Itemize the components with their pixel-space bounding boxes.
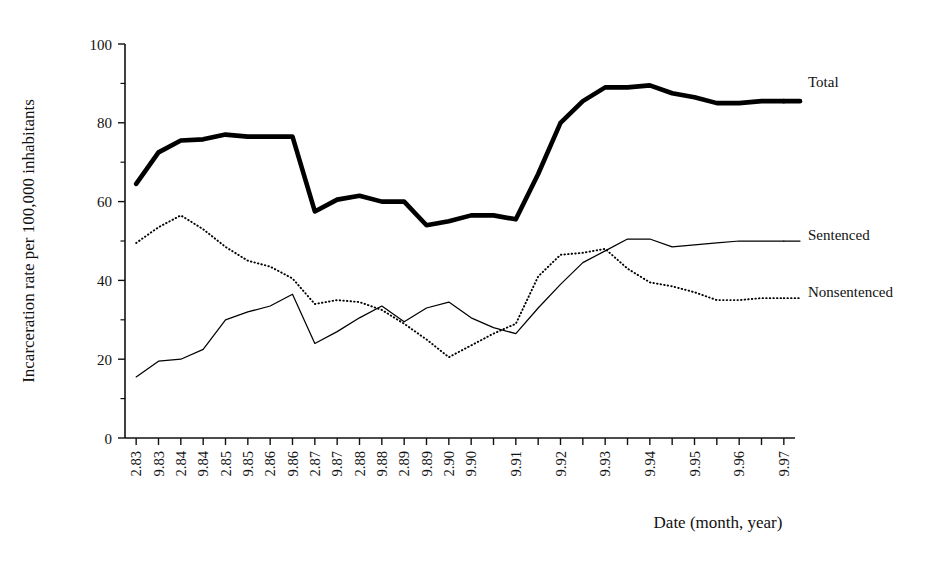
x-tick-label-2.87: 2.87 — [307, 451, 323, 476]
chart-series-group — [136, 85, 784, 377]
series-line-nonsentenced — [136, 215, 784, 357]
x-tick-label-9.97: 9.97 — [776, 451, 792, 476]
x-tick-label-2.85: 2.85 — [218, 451, 234, 476]
x-tick-label-9.86: 9.86 — [285, 451, 301, 476]
series-labels-group: TotalSentencedNonsentenced — [808, 74, 893, 300]
y-tick-label-40: 40 — [97, 273, 112, 289]
x-tick-label-9.92: 9.92 — [553, 451, 569, 476]
series-label-total: Total — [808, 74, 839, 90]
x-tick-label-9.83: 9.83 — [151, 451, 167, 476]
x-tick-label-9.89: 9.89 — [419, 451, 435, 476]
x-tick-label-9.90: 9.90 — [463, 451, 479, 476]
y-axis-title: Incarceration rate per 100,000 inhabitan… — [19, 99, 38, 383]
series-line-sentenced — [136, 239, 784, 377]
x-tick-label-2.88: 2.88 — [352, 451, 368, 476]
x-tick-label-2.90: 2.90 — [441, 451, 457, 476]
x-tick-label-9.87: 9.87 — [329, 451, 345, 476]
y-axis-ticks — [118, 44, 125, 438]
x-tick-label-9.88: 9.88 — [374, 451, 390, 476]
y-tick-label-100: 100 — [90, 37, 113, 53]
x-axis-title: Date (month, year) — [654, 513, 783, 532]
x-tick-label-9.84: 9.84 — [195, 450, 211, 476]
x-tick-label-9.91: 9.91 — [508, 451, 524, 476]
x-axis-ticks — [136, 438, 784, 445]
series-line-total — [136, 85, 784, 225]
y-tick-label-20: 20 — [97, 352, 112, 368]
x-tick-label-9.96: 9.96 — [731, 451, 747, 476]
x-tick-label-2.86: 2.86 — [262, 451, 278, 476]
x-tick-label-9.93: 9.93 — [597, 451, 613, 476]
series-leader-lines — [784, 101, 800, 298]
y-tick-label-0: 0 — [105, 431, 113, 447]
x-tick-label-9.95: 9.95 — [687, 451, 703, 476]
chart-figure: Incarceration rate per 100,000 inhabitan… — [0, 0, 927, 565]
x-tick-label-2.84: 2.84 — [173, 450, 189, 476]
x-tick-label-2.83: 2.83 — [128, 451, 144, 476]
x-axis-tick-labels: 2.839.832.849.842.859.852.869.862.879.87… — [128, 450, 792, 476]
y-tick-label-60: 60 — [97, 194, 112, 210]
incarceration-rate-line-chart: Incarceration rate per 100,000 inhabitan… — [0, 0, 927, 565]
series-label-nonsentenced: Nonsentenced — [808, 284, 893, 300]
x-tick-label-2.89: 2.89 — [396, 451, 412, 476]
y-axis-tick-labels: 020406080100 — [90, 37, 113, 447]
x-tick-label-9.85: 9.85 — [240, 451, 256, 476]
x-tick-label-9.94: 9.94 — [642, 450, 658, 476]
y-tick-label-80: 80 — [97, 115, 112, 131]
series-label-sentenced: Sentenced — [808, 227, 870, 243]
